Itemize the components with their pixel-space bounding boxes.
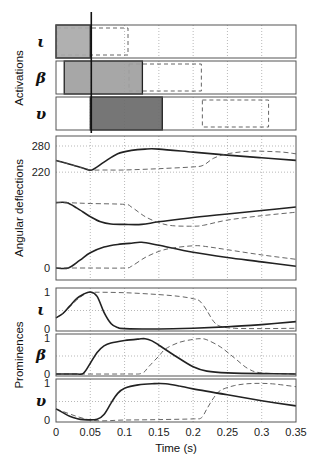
prominence-subplot-2: 10υ xyxy=(36,377,296,426)
prominence-subplot-1: 10β xyxy=(35,332,296,380)
y-tick-label: 1 xyxy=(44,286,50,298)
x-tick-label: 0.25 xyxy=(217,426,238,438)
x-axis-label: Time (s) xyxy=(155,442,197,454)
activations-group-label: Activations xyxy=(13,50,25,106)
y-tick-label: 1 xyxy=(44,377,50,389)
prominence-subplot-0: 10ι xyxy=(37,286,296,335)
activations-panel: ιβυ xyxy=(35,25,296,130)
prominences-panel: 10ι10β10υ xyxy=(35,286,296,426)
figure: Activations Angular deflections Prominen… xyxy=(0,0,323,466)
y-tick-label: 0 xyxy=(44,414,50,426)
row-symbol-label: ι xyxy=(37,33,44,51)
x-tick-label: 0.35 xyxy=(285,426,306,438)
prominences-group-label: Prominences xyxy=(13,321,25,388)
activation-bar xyxy=(56,25,90,58)
x-tick-label: 0.1 xyxy=(117,426,132,438)
row-symbol-label: υ xyxy=(36,105,47,123)
x-axis: 00.050.10.150.20.250.30.35 xyxy=(53,426,307,438)
row-symbol-label: υ xyxy=(36,392,47,410)
x-tick-label: 0.3 xyxy=(254,426,269,438)
row-symbol-label: ι xyxy=(37,301,44,319)
y-tick-label: 280 xyxy=(32,140,50,152)
row-symbol-label: β xyxy=(35,69,46,87)
angular-deflections-panel: 0220280 xyxy=(32,136,296,280)
activation-bar xyxy=(64,61,142,94)
x-tick-label: 0 xyxy=(53,426,59,438)
x-tick-label: 0.15 xyxy=(148,426,169,438)
activation-row-0: ι xyxy=(37,25,296,58)
activation-row-2: υ xyxy=(36,97,296,130)
row-symbol-label: β xyxy=(35,346,46,364)
x-tick-label: 0.2 xyxy=(185,426,200,438)
activation-row-1: β xyxy=(35,61,296,94)
y-tick-label: 220 xyxy=(32,166,50,178)
activation-bar xyxy=(90,97,162,130)
angular-group-label: Angular deflections xyxy=(13,159,25,257)
y-tick-label: 1 xyxy=(44,332,50,344)
x-tick-label: 0.05 xyxy=(80,426,101,438)
y-tick-label: 0 xyxy=(44,262,50,274)
